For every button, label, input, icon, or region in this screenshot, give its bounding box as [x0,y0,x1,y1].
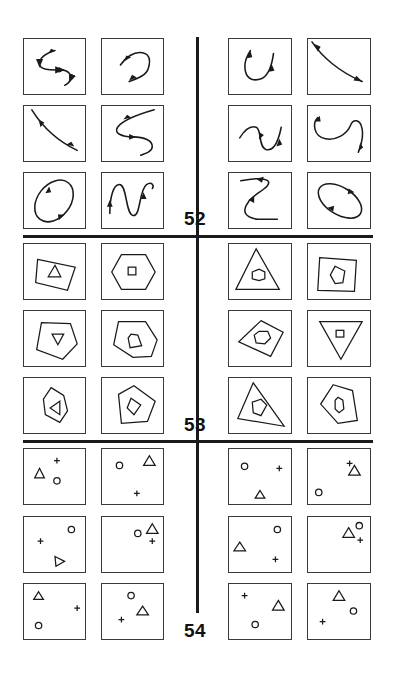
figure-54-10 [101,583,164,640]
figure-54-4 [307,448,371,505]
figure-53-1 [23,243,86,300]
figure-53-5 [23,310,86,367]
figure-53-10 [101,377,164,434]
figure-53-9 [23,377,86,434]
figure-52-4 [307,38,371,95]
section-label-52: 52 [184,208,206,230]
figure-54-6 [101,516,164,573]
figure-53-7 [228,310,292,367]
figure-52-6 [101,105,164,162]
divider-52-53 [23,235,373,238]
figure-52-12 [307,172,371,229]
figure-52-9 [23,172,86,229]
figure-54-8 [307,516,371,573]
figure-54-2 [101,448,164,505]
figure-53-11 [228,377,292,434]
figure-54-3 [228,448,292,505]
figure-53-6 [101,310,164,367]
figure-54-12 [307,583,371,640]
figure-52-5 [23,105,86,162]
section-label-53: 53 [184,414,206,436]
figure-54-9 [23,583,86,640]
figure-52-2 [101,38,164,95]
figure-52-7 [228,105,292,162]
figure-52-8 [307,105,371,162]
figure-52-10 [101,172,164,229]
figure-53-3 [228,243,292,300]
figure-54-11 [228,583,292,640]
figure-53-4 [307,243,371,300]
figure-52-1 [23,38,86,95]
figure-54-5 [23,516,86,573]
figure-52-3 [228,38,292,95]
section-label-54: 54 [184,620,206,642]
figure-54-1 [23,448,86,505]
divider-53-54 [23,440,373,443]
figure-53-12 [307,377,371,434]
figure-53-8 [307,310,371,367]
vertical-divider [196,37,199,613]
figure-53-2 [101,243,164,300]
figure-52-11 [228,172,292,229]
figure-54-7 [228,516,292,573]
